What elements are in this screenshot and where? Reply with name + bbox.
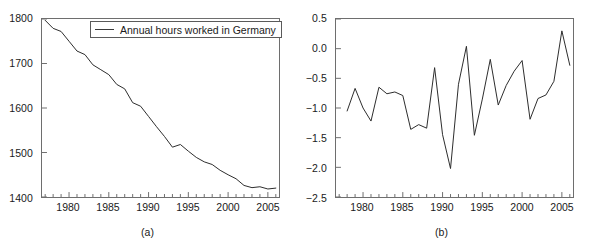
figure-two-panel-line-charts: 1800 1700 1600 1500 1400 1980 1985 1990 … [0, 0, 589, 250]
plot-svg-b [336, 19, 573, 197]
series-annual-hours-worked [45, 20, 276, 189]
y-tick-label: −1.5 [294, 133, 327, 143]
y-tick-label: −2.5 [294, 193, 327, 203]
y-tick-label: 1600 [0, 103, 33, 113]
legend-line-swatch-icon [95, 29, 114, 30]
x-tick-label: 1990 [128, 202, 168, 213]
y-tick-label: 1400 [0, 193, 33, 203]
x-tick-label: 1980 [342, 202, 382, 213]
x-tick-label: 2005 [542, 202, 582, 213]
y-tick-label: 1500 [0, 148, 33, 158]
x-tick-label: 1990 [422, 202, 462, 213]
panel-b: 0.5 0.0 −0.5 −1.0 −1.5 −2.0 −2.5 1980 19… [294, 0, 589, 250]
x-tick-label: 2005 [248, 202, 288, 213]
series-percent-annual-change [347, 31, 570, 169]
panel-a: 1800 1700 1600 1500 1400 1980 1985 1990 … [0, 0, 295, 250]
x-tick-label: 1985 [88, 202, 128, 213]
y-tick-marks [42, 19, 47, 197]
plot-area-b [335, 18, 574, 198]
y-tick-label: 1700 [0, 58, 33, 68]
subcaption-a: (a) [0, 226, 295, 238]
subcaption-b: (b) [294, 226, 589, 238]
y-tick-label: 0.5 [294, 13, 327, 23]
plot-area-a [41, 18, 280, 198]
x-tick-label: 1980 [48, 202, 88, 213]
x-tick-label: 1985 [382, 202, 422, 213]
x-tick-marks [339, 192, 570, 197]
y-tick-label: −2.0 [294, 163, 327, 173]
y-tick-label: 0.0 [294, 43, 327, 53]
legend-label-a: Annual hours worked in Germany [120, 24, 276, 36]
y-tick-label: −0.5 [294, 73, 327, 83]
x-tick-label: 1995 [462, 202, 502, 213]
y-tick-label: 1800 [0, 13, 33, 23]
x-tick-label: 1995 [168, 202, 208, 213]
y-tick-label: −1.0 [294, 103, 327, 113]
x-tick-label: 2000 [502, 202, 542, 213]
x-tick-label: 2000 [208, 202, 248, 213]
x-tick-marks [45, 192, 276, 197]
plot-svg-a [42, 19, 279, 197]
legend-a[interactable]: Annual hours worked in Germany [90, 21, 282, 38]
y-tick-marks [336, 19, 341, 197]
